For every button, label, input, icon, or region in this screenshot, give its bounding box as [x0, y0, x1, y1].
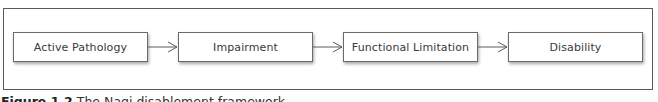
node-active-pathology: Active Pathology: [13, 32, 148, 62]
node-label: Impairment: [213, 41, 278, 54]
caption-text: The Nagi disablement framework: [77, 94, 285, 102]
node-impairment: Impairment: [178, 32, 313, 62]
node-label: Functional Limitation: [352, 41, 469, 54]
node-label: Active Pathology: [34, 41, 127, 54]
arrow-right-icon: [478, 41, 508, 53]
node-label: Disability: [550, 41, 602, 54]
figure-caption: Figure 1.2The Nagi disablement framework: [1, 94, 285, 102]
node-functional-limitation: Functional Limitation: [343, 32, 478, 62]
arrow-right-icon: [313, 41, 343, 53]
figure-number: Figure 1.2: [1, 94, 73, 102]
arrow-right-icon: [148, 41, 178, 53]
node-disability: Disability: [508, 32, 643, 62]
